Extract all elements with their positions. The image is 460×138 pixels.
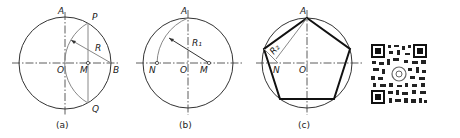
label-n: N bbox=[149, 65, 156, 75]
arrowhead-icon bbox=[169, 38, 174, 42]
label-r: R bbox=[95, 43, 101, 53]
label-o: O bbox=[180, 65, 187, 75]
label-a: A bbox=[57, 6, 64, 16]
label-m: M bbox=[80, 65, 88, 75]
panel-c: A R₂ N O (c) bbox=[256, 6, 362, 130]
point-m bbox=[207, 61, 210, 64]
label-a: A bbox=[299, 6, 306, 16]
label-p: P bbox=[92, 12, 98, 22]
qr-code bbox=[370, 43, 428, 105]
label-a: A bbox=[180, 6, 187, 16]
label-o: O bbox=[57, 65, 64, 75]
caption-b: (b) bbox=[179, 120, 192, 130]
label-m: M bbox=[200, 65, 208, 75]
label-q: Q bbox=[92, 104, 99, 114]
point-n bbox=[155, 61, 158, 64]
label-o: O bbox=[299, 65, 306, 75]
radius-r1-line bbox=[169, 38, 209, 63]
radius-r2-line bbox=[276, 18, 307, 59]
radius-r-line bbox=[71, 40, 111, 63]
label-b: B bbox=[113, 65, 119, 75]
panel-b: A R₁ N O M (b) bbox=[136, 6, 242, 130]
caption-c: (c) bbox=[298, 120, 310, 130]
caption-a: (a) bbox=[56, 120, 69, 130]
arrowhead-icon bbox=[71, 40, 76, 44]
label-r1: R₁ bbox=[192, 38, 202, 48]
label-n: N bbox=[273, 65, 280, 75]
pentagon-construction-figure: A P R O M B Q (a) A R₁ N O M (b) A R₂ N … bbox=[0, 0, 460, 138]
panel-a: A P R O M B Q (a) bbox=[12, 6, 120, 130]
